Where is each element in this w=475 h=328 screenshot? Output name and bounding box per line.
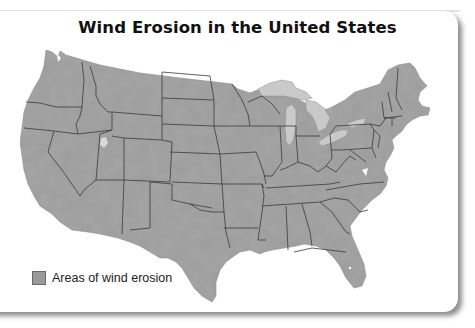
us-landmass — [20, 50, 430, 302]
legend-swatch-wind-erosion — [32, 271, 46, 285]
legend-label: Areas of wind erosion — [52, 271, 172, 285]
map-title: Wind Erosion in the United States — [0, 18, 475, 37]
map-legend: Areas of wind erosion — [32, 271, 172, 285]
